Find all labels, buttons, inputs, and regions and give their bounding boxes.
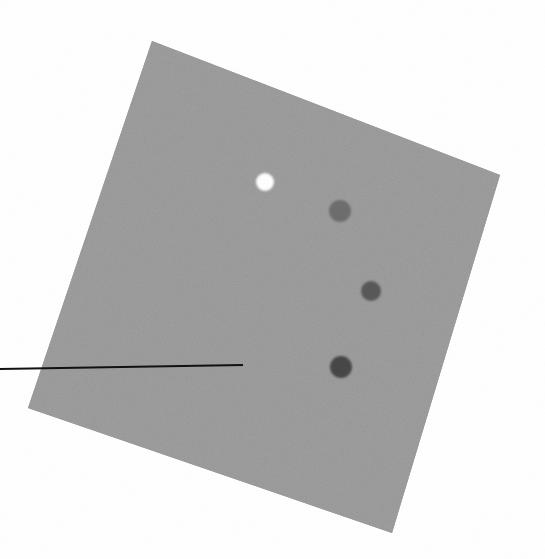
marker-dot-3: [361, 281, 381, 301]
marker-dot-4: [330, 356, 352, 378]
scan-canvas: [0, 0, 545, 559]
scan-figure: [0, 0, 545, 559]
marker-dot-2: [329, 200, 351, 222]
marker-dot-1: [256, 173, 274, 191]
